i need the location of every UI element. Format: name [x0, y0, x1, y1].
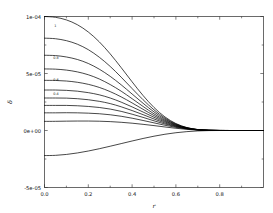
- series-curve: [45, 131, 264, 156]
- x-tick-label: 0.2: [84, 191, 92, 197]
- y-axis-title: δ: [6, 100, 13, 104]
- x-tick-label: 0.4: [128, 191, 137, 197]
- plot-frame: [45, 17, 264, 188]
- x-tick-label: 0.6: [172, 191, 180, 197]
- series-curve: [45, 121, 264, 130]
- y-tick-label: 0e+00: [24, 128, 41, 134]
- series-curve: [45, 38, 264, 130]
- curve-annotation: 0.8: [53, 56, 58, 60]
- curve-annotation: 1: [54, 24, 56, 28]
- chart-figure: 0.00.20.40.60.8-5e-050e+005e-051e-04rδ10…: [0, 0, 273, 213]
- x-tick-label: 0.8: [216, 191, 224, 197]
- y-tick-label: 1e-04: [26, 14, 42, 20]
- y-tick-label: 5e-05: [26, 71, 41, 77]
- series-curve: [45, 17, 264, 131]
- line-chart-canvas: 0.00.20.40.60.8-5e-050e+005e-051e-04rδ10…: [0, 0, 273, 213]
- x-tick-label: 0.0: [40, 191, 48, 197]
- x-axis-title: r: [153, 202, 157, 209]
- y-tick-label: -5e-05: [24, 185, 41, 191]
- curve-annotation: 0.4: [53, 92, 58, 96]
- curve-annotation: 0.6: [53, 78, 58, 82]
- series-curve: [45, 105, 264, 130]
